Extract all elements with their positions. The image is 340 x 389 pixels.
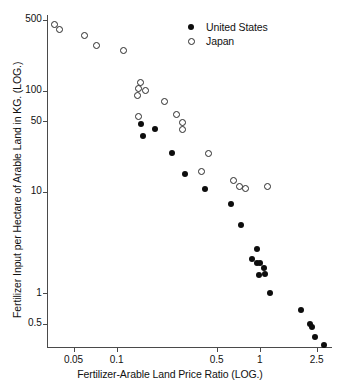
data-point-japan xyxy=(264,183,271,190)
data-point-japan xyxy=(135,85,142,92)
x-tick xyxy=(217,347,218,352)
data-point-japan xyxy=(179,119,186,126)
chart-legend: United States Japan xyxy=(184,20,268,48)
data-point-united-states xyxy=(262,271,268,277)
data-point-united-states xyxy=(152,126,158,132)
data-point-japan xyxy=(179,126,186,133)
data-point-japan xyxy=(142,87,149,94)
data-point-united-states xyxy=(140,133,146,139)
data-point-japan xyxy=(198,168,205,175)
x-tick-label: 2.5 xyxy=(297,354,337,365)
y-tick xyxy=(43,121,48,122)
data-point-japan xyxy=(161,98,168,105)
scatter-plot-figure: 500100501010.5 0.050.10.512.5 United Sta… xyxy=(0,0,340,389)
data-point-japan xyxy=(242,185,249,192)
x-tick-label: 0.5 xyxy=(197,354,237,365)
data-point-japan xyxy=(81,32,88,39)
data-point-united-states xyxy=(228,201,234,207)
data-point-united-states xyxy=(321,342,327,348)
legend-label-japan: Japan xyxy=(206,35,234,47)
data-point-united-states xyxy=(138,121,144,127)
x-tick-label: 0.05 xyxy=(54,354,94,365)
data-point-japan xyxy=(134,92,141,99)
legend-item-united-states: United States xyxy=(184,20,268,34)
data-point-united-states xyxy=(254,246,260,252)
y-tick-label: 500 xyxy=(4,13,42,24)
data-point-united-states xyxy=(312,334,318,340)
legend-label-united-states: United States xyxy=(206,21,268,33)
data-point-japan xyxy=(205,150,212,157)
data-point-united-states xyxy=(267,290,273,296)
open-circle-icon xyxy=(184,38,198,45)
data-point-united-states xyxy=(169,150,175,156)
data-point-japan xyxy=(120,47,127,54)
legend-item-japan: Japan xyxy=(184,34,268,48)
x-tick xyxy=(117,347,118,352)
data-point-japan xyxy=(173,111,180,118)
filled-circle-icon xyxy=(184,24,198,30)
data-point-united-states xyxy=(238,222,244,228)
y-tick xyxy=(43,324,48,325)
y-tick xyxy=(43,91,48,92)
x-tick-label: 0.1 xyxy=(97,354,137,365)
x-tick xyxy=(260,347,261,352)
y-tick-label: 0.5 xyxy=(4,317,42,328)
data-point-japan xyxy=(135,113,142,120)
y-tick xyxy=(43,293,48,294)
data-point-united-states xyxy=(298,307,304,313)
x-axis-title: Fertilizer-Arable Land Price Ratio (LOG.… xyxy=(0,368,340,380)
x-tick-label: 1 xyxy=(240,354,280,365)
data-point-japan xyxy=(56,26,63,33)
data-point-united-states xyxy=(202,186,208,192)
data-point-united-states xyxy=(182,171,188,177)
x-axis-line xyxy=(47,347,332,348)
y-axis-line xyxy=(47,15,48,348)
y-tick xyxy=(43,20,48,21)
y-axis-title: Fertilizer Input per Hectare of Arable L… xyxy=(11,62,23,318)
x-tick xyxy=(317,347,318,352)
x-tick xyxy=(74,347,75,352)
y-tick xyxy=(43,192,48,193)
data-point-united-states xyxy=(309,324,315,330)
data-point-japan xyxy=(93,42,100,49)
